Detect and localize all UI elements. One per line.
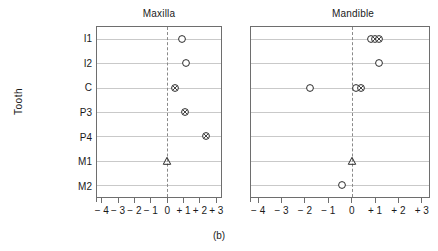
x-tick-mandible-7	[421, 198, 422, 203]
x-tick-maxilla-2	[134, 198, 135, 203]
x-tick-label-maxilla-7: + 3	[209, 205, 223, 216]
gridline-i1	[97, 39, 221, 40]
figure-panel-b: Maxilla Mandible Tooth I1I2CP3P4M1M2 − 4…	[0, 0, 438, 251]
x-tick-label-mandible-4: 0	[349, 205, 355, 216]
x-tick-label-maxilla-2: − 2	[127, 205, 141, 216]
y-axis-label-i2: I2	[52, 57, 92, 68]
data-point-mandible-c-6	[357, 83, 366, 92]
y-axis-title: Tooth	[13, 72, 24, 132]
x-tick-label-mandible-1: − 3	[274, 205, 288, 216]
gridline-m1	[251, 161, 429, 162]
data-point-mandible-m1-7	[347, 156, 356, 165]
plot-area-maxilla	[96, 26, 222, 198]
y-axis-label-p4: P4	[52, 131, 92, 142]
data-point-maxilla-i1-0	[178, 35, 187, 44]
x-tick-label-maxilla-1: − 3	[111, 205, 125, 216]
gridline-i2	[251, 63, 429, 64]
x-tick-label-maxilla-4: 0	[164, 205, 170, 216]
data-point-maxilla-i2-1	[181, 59, 190, 68]
x-axis-mandible: − 4− 3− 2− 10+ 1+ 2+ 3	[250, 198, 430, 228]
x-tick-label-mandible-6: + 2	[391, 205, 405, 216]
x-tick-maxilla-1	[118, 198, 119, 203]
gridline-i2	[97, 63, 221, 64]
x-tick-mandible-2	[304, 198, 305, 203]
x-tick-mandible-3	[328, 198, 329, 203]
gridline-p3	[97, 112, 221, 113]
x-tick-label-maxilla-5: + 1	[176, 205, 190, 216]
y-axis-label-m2: M2	[52, 180, 92, 191]
x-tick-maxilla-5	[183, 198, 184, 203]
panel-title-mandible: Mandible	[290, 8, 416, 19]
x-tick-label-maxilla-0: − 4	[95, 205, 109, 216]
y-axis-label-c: C	[52, 82, 92, 93]
x-tick-maxilla-7	[216, 198, 217, 203]
gridline-i1	[251, 39, 429, 40]
x-tick-label-maxilla-3: − 1	[144, 205, 158, 216]
x-tick-mandible-6	[398, 198, 399, 203]
plot-area-mandible	[250, 26, 430, 198]
gridline-p3	[251, 112, 429, 113]
x-tick-mandible-4	[351, 198, 352, 203]
x-tick-maxilla-6	[199, 198, 200, 203]
gridline-c	[251, 88, 429, 89]
data-point-maxilla-p3-3	[180, 108, 189, 117]
x-tick-mandible-5	[375, 198, 376, 203]
gridline-m1	[97, 161, 221, 162]
x-tick-maxilla-3	[150, 198, 151, 203]
x-tick-maxilla-4	[167, 198, 168, 203]
x-tick-maxilla-0	[101, 198, 102, 203]
gridline-c	[97, 88, 221, 89]
data-point-mandible-c-4	[305, 83, 314, 92]
figure-caption: (b)	[0, 230, 438, 241]
y-axis-label-i1: I1	[52, 33, 92, 44]
zero-reference-line	[352, 27, 353, 197]
data-point-mandible-i1-2	[374, 35, 383, 44]
x-tick-mandible-1	[281, 198, 282, 203]
x-tick-label-mandible-7: + 3	[415, 205, 429, 216]
data-point-maxilla-m1-5	[163, 156, 172, 165]
x-tick-mandible-0	[258, 198, 259, 203]
data-point-maxilla-p4-4	[201, 132, 210, 141]
gridline-p4	[251, 136, 429, 137]
x-tick-label-maxilla-6: + 2	[193, 205, 207, 216]
x-tick-label-mandible-3: − 1	[321, 205, 335, 216]
y-axis-label-m1: M1	[52, 156, 92, 167]
x-tick-label-mandible-0: − 4	[251, 205, 265, 216]
panel-title-maxilla: Maxilla	[96, 8, 222, 19]
y-axis-label-p3: P3	[52, 107, 92, 118]
y-axis-tick-labels: I1I2CP3P4M1M2	[44, 26, 92, 198]
zero-reference-line	[167, 27, 168, 197]
data-point-maxilla-c-2	[171, 83, 180, 92]
x-tick-label-mandible-2: − 2	[298, 205, 312, 216]
gridline-m2	[97, 185, 221, 186]
data-point-mandible-m2-8	[337, 180, 346, 189]
x-axis-maxilla: − 4− 3− 2− 10+ 1+ 2+ 3	[96, 198, 222, 228]
x-tick-label-mandible-5: + 1	[368, 205, 382, 216]
data-point-mandible-i2-3	[375, 59, 384, 68]
